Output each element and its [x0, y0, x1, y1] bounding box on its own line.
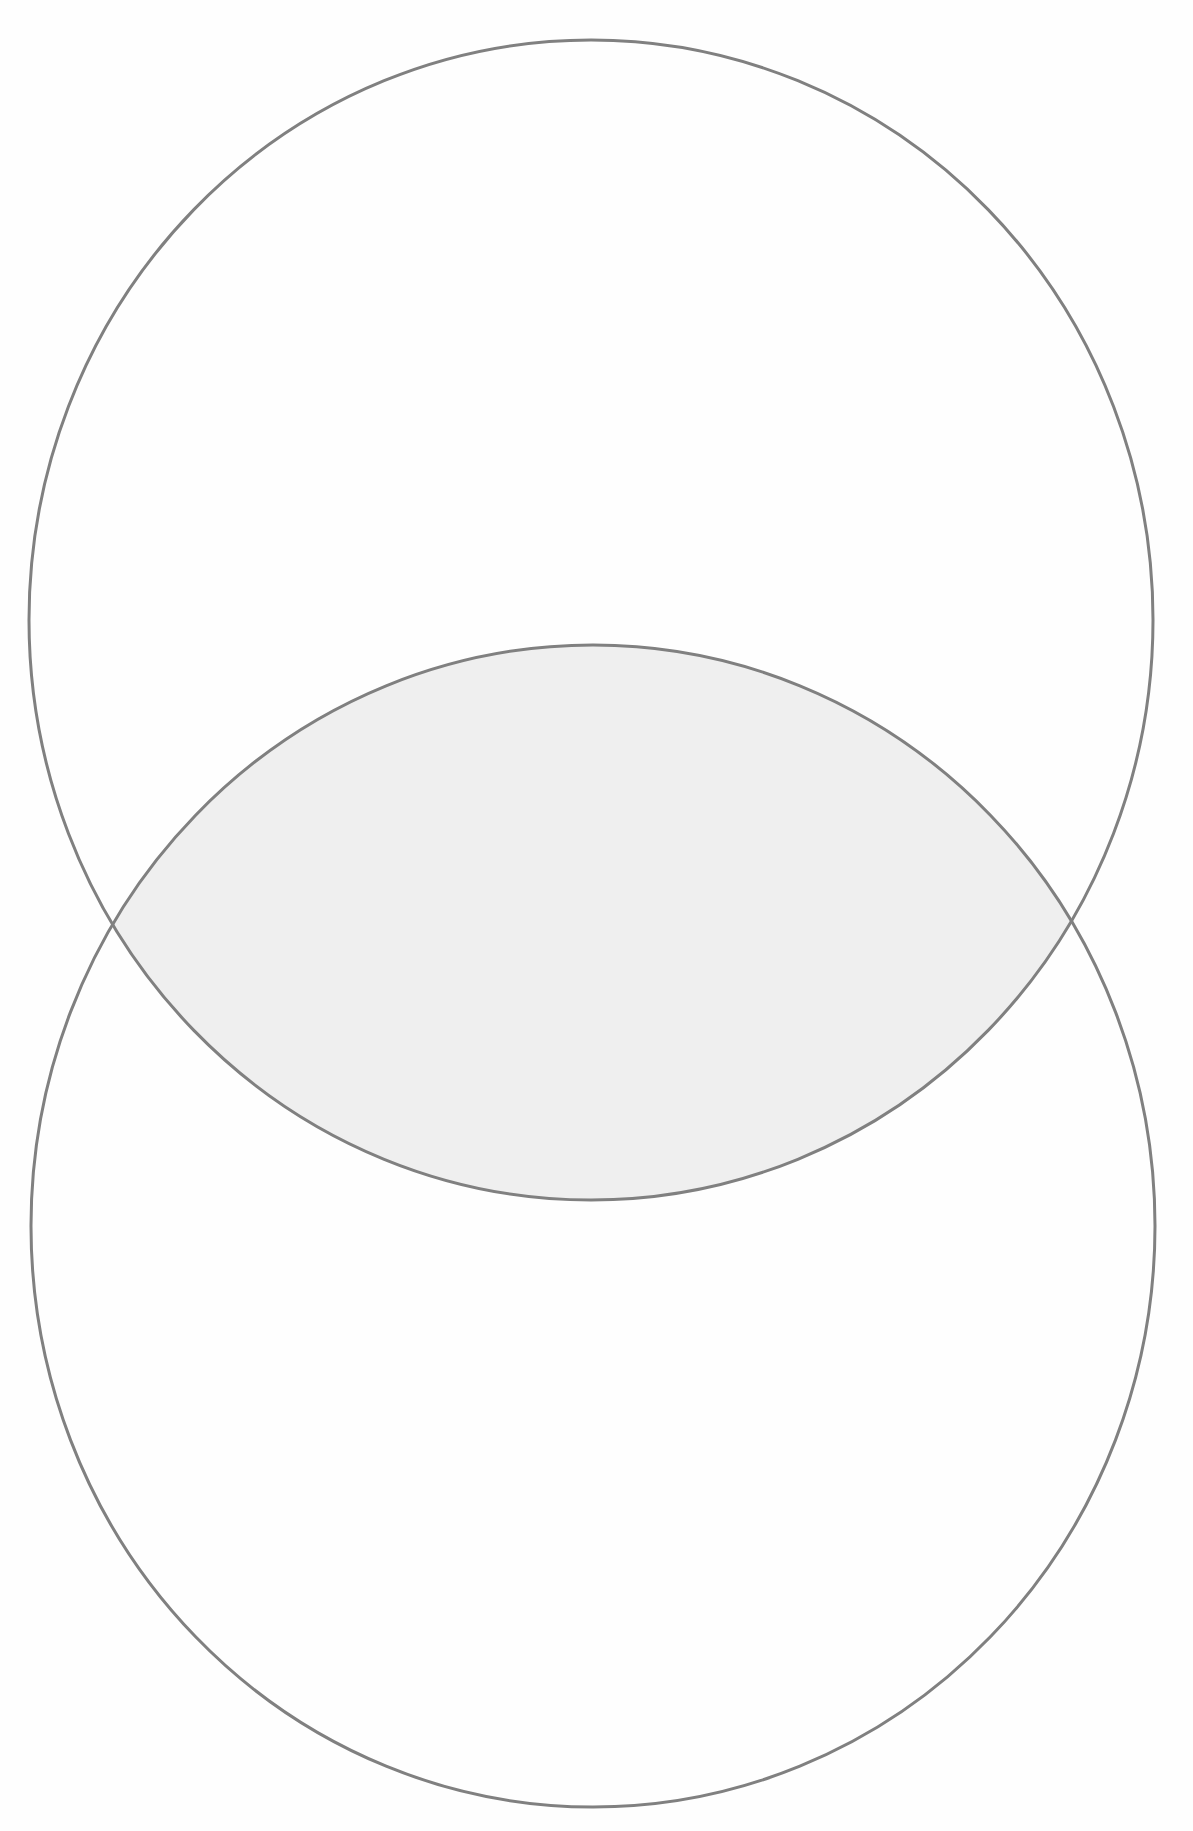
intersection-region	[31, 645, 1155, 1807]
venn-diagram	[0, 0, 1193, 1831]
page	[0, 0, 1193, 1831]
